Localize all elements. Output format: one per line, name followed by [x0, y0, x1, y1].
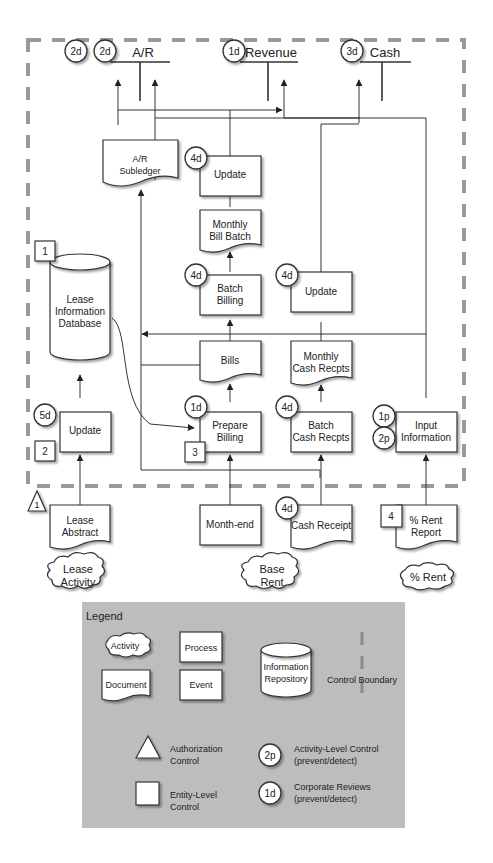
svg-text:Base: Base: [259, 563, 284, 575]
svg-text:Batch: Batch: [308, 420, 334, 431]
badge-corporate-review: 3d: [341, 40, 363, 62]
event-month-end: Month-end: [200, 505, 261, 545]
svg-text:Bill Batch: Bill Batch: [209, 231, 251, 242]
badge-corporate-review: 2d: [65, 40, 87, 62]
svg-text:2p: 2p: [264, 750, 276, 761]
svg-text:Lease: Lease: [63, 563, 93, 575]
svg-text:Cash: Cash: [370, 45, 400, 60]
svg-text:Information: Information: [401, 432, 451, 443]
svg-text:Monthly: Monthly: [303, 351, 338, 362]
svg-text:4d: 4d: [281, 503, 292, 514]
legend-process: Process: [180, 632, 222, 662]
svg-text:2d: 2d: [99, 46, 110, 57]
document-cash-receipt: Cash Receipt 4d: [276, 497, 352, 549]
svg-text:Report: Report: [411, 527, 441, 538]
svg-text:4: 4: [388, 511, 394, 522]
svg-text:Subledger: Subledger: [119, 166, 160, 176]
badge-corporate-review: 1d: [223, 40, 245, 62]
svg-text:1p: 1p: [378, 411, 390, 422]
process-update-lease: Update 5d 2: [34, 404, 111, 461]
svg-text:Update: Update: [305, 286, 338, 297]
badge-corporate-review: 2d: [94, 40, 116, 62]
svg-text:Rent: Rent: [260, 576, 283, 588]
account-ar: A/R: [110, 45, 170, 101]
svg-text:4d: 4d: [281, 270, 292, 281]
account-revenue: Revenue: [240, 45, 298, 101]
svg-text:3: 3: [192, 447, 198, 458]
svg-text:Document: Document: [105, 680, 147, 690]
svg-text:Lease: Lease: [66, 515, 94, 526]
svg-text:Information: Information: [263, 662, 308, 672]
activity-base-rent: Base Rent: [241, 553, 298, 589]
svg-text:3d: 3d: [346, 46, 357, 57]
activity-lease-activity: Lease Activity: [47, 553, 104, 589]
svg-text:Billing: Billing: [217, 432, 244, 443]
svg-text:Input: Input: [415, 420, 437, 431]
svg-text:A/R: A/R: [132, 154, 148, 164]
svg-text:5d: 5d: [39, 410, 50, 421]
document-lease-abstract: Lease Abstract 1: [28, 491, 110, 549]
svg-text:Batch: Batch: [217, 283, 243, 294]
svg-text:Process: Process: [185, 643, 218, 653]
svg-text:Authorization: Authorization: [170, 744, 223, 754]
svg-text:Control: Control: [170, 802, 199, 812]
svg-text:1: 1: [42, 246, 48, 257]
svg-text:2d: 2d: [70, 46, 81, 57]
document-monthly-cash-recpts: Monthly Cash Recpts: [291, 341, 352, 385]
svg-text:Lease: Lease: [66, 294, 94, 305]
control-flow-diagram: A/R Revenue Cash 2d 2d 1d 3d: [0, 0, 493, 863]
legend-activity: Activity: [106, 633, 151, 657]
svg-text:Event: Event: [189, 680, 213, 690]
svg-text:Legend: Legend: [86, 610, 123, 622]
legend-event: Event: [180, 670, 222, 700]
svg-text:A/R: A/R: [132, 45, 154, 60]
svg-text:2: 2: [42, 446, 48, 457]
account-cash: Cash: [360, 45, 411, 101]
legend-repository: Information Repository: [261, 643, 311, 697]
process-batch-cash-recpts: Batch Cash Recpts 4d: [276, 396, 352, 452]
svg-text:Activity: Activity: [111, 641, 140, 651]
svg-text:2p: 2p: [378, 433, 390, 444]
svg-text:1d: 1d: [264, 788, 275, 799]
svg-text:Month-end: Month-end: [206, 519, 254, 530]
document-bills: Bills: [200, 341, 261, 382]
repository-lease-information-database: Lease Information Database 1: [35, 241, 110, 360]
svg-text:Cash Receipt: Cash Receipt: [291, 520, 351, 531]
svg-text:1d: 1d: [228, 46, 239, 57]
svg-text:Cash Recpts: Cash Recpts: [292, 363, 349, 374]
svg-text:Update: Update: [69, 425, 102, 436]
svg-text:Corporate Reviews: Corporate Reviews: [294, 782, 371, 792]
svg-text:Database: Database: [59, 318, 102, 329]
svg-text:Monthly: Monthly: [212, 219, 247, 230]
svg-text:Control Boundary: Control Boundary: [327, 675, 398, 685]
document-monthly-bill-batch: Monthly Bill Batch: [200, 210, 261, 252]
svg-text:Entity-Level: Entity-Level: [170, 790, 217, 800]
svg-text:Billing: Billing: [217, 295, 244, 306]
process-update-cash: Update 4d: [276, 264, 352, 312]
svg-text:1: 1: [34, 500, 39, 510]
process-batch-billing: Batch Billing 4d: [185, 264, 261, 315]
svg-text:Activity-Level Control: Activity-Level Control: [294, 744, 379, 754]
svg-text:4d: 4d: [190, 153, 201, 164]
svg-text:Cash Recpts: Cash Recpts: [292, 432, 349, 443]
svg-text:Control: Control: [170, 756, 199, 766]
svg-text:Prepare: Prepare: [212, 420, 248, 431]
svg-text:4d: 4d: [281, 402, 292, 413]
svg-text:Update: Update: [214, 169, 247, 180]
process-update-top: Update 4d: [185, 147, 261, 196]
document-ar-subledger: A/R Subledger: [103, 140, 178, 186]
svg-text:(prevent/detect): (prevent/detect): [294, 756, 357, 766]
svg-text:Information: Information: [55, 306, 105, 317]
document-pct-rent-report: % Rent Report 4: [381, 505, 457, 549]
svg-text:Abstract: Abstract: [62, 527, 99, 538]
svg-text:% Rent: % Rent: [410, 571, 446, 583]
legend: Legend Activity Document Process Event I…: [82, 602, 405, 828]
svg-text:Revenue: Revenue: [245, 45, 297, 60]
svg-text:% Rent: % Rent: [410, 515, 443, 526]
svg-text:Activity: Activity: [61, 576, 96, 588]
svg-text:Repository: Repository: [264, 674, 308, 684]
activity-pct-rent: % Rent: [400, 563, 453, 590]
process-prepare-billing: Prepare Billing 1d 3: [185, 396, 261, 462]
svg-text:1d: 1d: [190, 402, 201, 413]
process-input-information: Input Information 1p 2p: [373, 405, 457, 452]
